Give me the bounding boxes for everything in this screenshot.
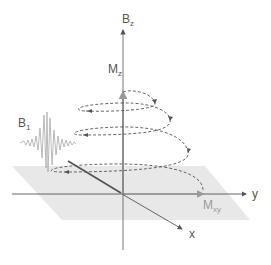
mri-precession-diagram: Bz Mz B1 Mxy y x xyxy=(0,0,271,265)
bz-label: Bz xyxy=(122,13,134,28)
y-axis-label: y xyxy=(252,188,258,200)
b1-label: B1 xyxy=(18,117,30,132)
x-axis-label: x xyxy=(189,228,195,240)
diagram-graphics xyxy=(0,0,271,265)
mz-label: Mz xyxy=(108,63,122,78)
mxy-label: Mxy xyxy=(203,199,221,214)
